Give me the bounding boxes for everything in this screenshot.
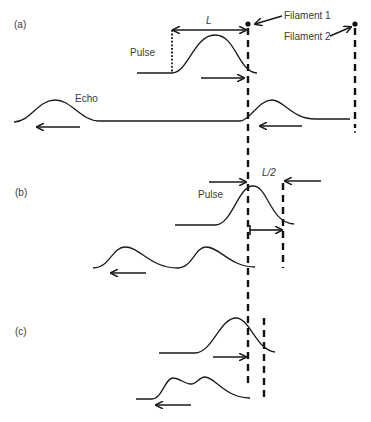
echo-label: Echo [75,93,98,104]
echo-b-waveform [93,247,255,268]
filament-2-end-dot [354,131,356,133]
filament-1-label: Filament 1 [284,10,331,21]
panel-a-label: (a) [14,19,26,30]
filament-2-pointer [330,27,351,36]
filament-2-label: Filament 2 [284,31,331,42]
half-length-label: L/2 [262,167,276,178]
length-L-label: L [206,15,212,26]
pulse-b-waveform [175,186,294,225]
pulse-b-label: Pulse [198,189,223,200]
echo-c-waveform [136,377,250,399]
pulse-c-waveform [159,318,275,353]
filament-1-dot [245,21,250,26]
pulse-a-label: Pulse [130,47,155,58]
panel-c-label: (c) [15,326,27,337]
transmitted-pulse-waveform [248,100,350,119]
filament-1-pointer [255,16,282,24]
panel-b-label: (b) [15,187,27,198]
echo-waveform [14,100,248,122]
filament-2-dot [352,21,357,26]
pulse-echo-diagram: (a) Filament 1 Filament 2 L Pulse Echo (… [0,0,371,422]
